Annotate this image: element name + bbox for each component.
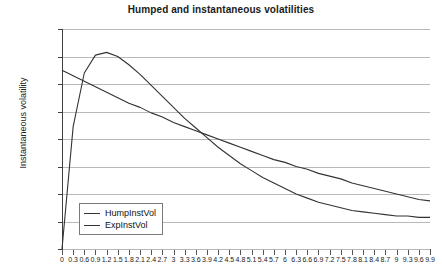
- x-tick-label: 0.9: [91, 256, 101, 263]
- y-tick-mark: [58, 194, 63, 195]
- x-tick-mark: [73, 250, 74, 255]
- x-tick-label: 6.3: [291, 256, 301, 263]
- x-tick-label: 2.1: [135, 256, 145, 263]
- x-tick-mark: [385, 250, 386, 255]
- chart-title: Humped and instantaneous volatilities: [0, 4, 442, 15]
- x-tick-label: 6.9: [314, 256, 324, 263]
- legend-swatch-icon: [84, 213, 100, 214]
- x-tick-mark: [62, 250, 63, 255]
- x-tick-label: 1.2: [102, 256, 112, 263]
- x-tick-mark: [352, 250, 353, 255]
- y-tick-mark: [58, 57, 63, 58]
- x-tick-mark: [363, 250, 364, 255]
- legend-swatch-icon: [84, 225, 100, 226]
- series-line: [62, 70, 430, 201]
- x-tick-mark: [207, 250, 208, 255]
- x-tick-label: 9.6: [414, 256, 424, 263]
- y-tick-mark: [58, 84, 63, 85]
- x-tick-label: 3: [172, 256, 176, 263]
- x-tick-mark: [107, 250, 108, 255]
- x-tick-mark: [185, 250, 186, 255]
- x-tick-mark: [285, 250, 286, 255]
- x-tick-label: 3.6: [191, 256, 201, 263]
- y-tick-mark: [58, 139, 63, 140]
- x-tick-mark: [174, 250, 175, 255]
- x-tick-mark: [408, 250, 409, 255]
- x-tick-mark: [118, 250, 119, 255]
- x-tick-label: 4.8: [236, 256, 246, 263]
- x-tick-mark: [95, 250, 96, 255]
- x-tick-label: 4.5: [224, 256, 234, 263]
- x-tick-label: 2.7: [157, 256, 167, 263]
- x-tick-mark: [84, 250, 85, 255]
- x-tick-mark: [263, 250, 264, 255]
- x-tick-mark: [162, 250, 163, 255]
- legend-label: HumpInstVol: [105, 208, 156, 218]
- x-tick-label: 7.5: [336, 256, 346, 263]
- x-tick-label: 0.6: [79, 256, 89, 263]
- x-tick-label: 9.9: [425, 256, 435, 263]
- x-tick-mark: [252, 250, 253, 255]
- legend-item[interactable]: HumpInstVol: [84, 207, 156, 219]
- y-axis-label: Instantaneous volatility: [18, 38, 28, 208]
- x-tick-mark: [419, 250, 420, 255]
- x-tick-label: 9.3: [403, 256, 413, 263]
- x-tick-label: 0: [60, 256, 64, 263]
- x-tick-label: 5.7: [269, 256, 279, 263]
- x-tick-label: 7.2: [325, 256, 335, 263]
- x-tick-mark: [307, 250, 308, 255]
- x-tick-label: 6: [283, 256, 287, 263]
- x-tick-mark: [129, 250, 130, 255]
- x-tick-mark: [397, 250, 398, 255]
- x-tick-mark: [229, 250, 230, 255]
- x-tick-mark: [341, 250, 342, 255]
- x-tick-label: 1.8: [124, 256, 134, 263]
- x-tick-label: 7.8: [347, 256, 357, 263]
- x-tick-mark: [196, 250, 197, 255]
- x-tick-mark: [151, 250, 152, 255]
- x-tick-label: 6.6: [302, 256, 312, 263]
- x-tick-mark: [296, 250, 297, 255]
- x-tick-mark: [330, 250, 331, 255]
- volatility-chart: Humped and instantaneous volatilities In…: [0, 0, 442, 274]
- y-tick-mark: [58, 222, 63, 223]
- x-tick-label: 3.9: [202, 256, 212, 263]
- x-tick-label: 9: [395, 256, 399, 263]
- x-tick-mark: [374, 250, 375, 255]
- y-tick-mark: [58, 167, 63, 168]
- x-tick-label: 8.1: [358, 256, 368, 263]
- x-tick-mark: [274, 250, 275, 255]
- x-tick-mark: [318, 250, 319, 255]
- x-tick-label: 8.7: [381, 256, 391, 263]
- chart-legend: HumpInstVolExpInstVol: [79, 203, 163, 235]
- x-tick-label: 0.3: [68, 256, 78, 263]
- legend-item[interactable]: ExpInstVol: [84, 219, 156, 231]
- x-tick-label: 5.4: [258, 256, 268, 263]
- x-tick-label: 2.4: [146, 256, 156, 263]
- x-tick-label: 8.4: [369, 256, 379, 263]
- y-tick-mark: [58, 29, 63, 30]
- x-tick-label: 3.3: [180, 256, 190, 263]
- x-tick-label: 1.5: [113, 256, 123, 263]
- x-tick-mark: [430, 250, 431, 255]
- x-tick-mark: [218, 250, 219, 255]
- y-tick-mark: [58, 112, 63, 113]
- x-tick-label: 4.2: [213, 256, 223, 263]
- x-tick-mark: [240, 250, 241, 255]
- x-tick-label: 5.1: [247, 256, 257, 263]
- x-tick-mark: [140, 250, 141, 255]
- legend-label: ExpInstVol: [105, 220, 148, 230]
